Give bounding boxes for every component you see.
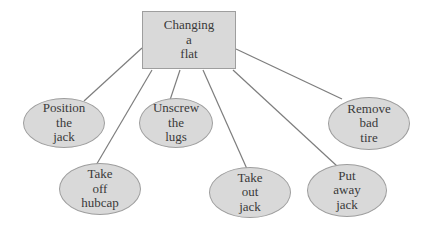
edge-unscrew-the-lugs xyxy=(170,70,180,100)
edge-remove-bad-tire xyxy=(236,49,342,99)
node-put-away-jack: Put away jack xyxy=(307,164,387,217)
node-position-the-jack: Position the jack xyxy=(23,98,105,148)
edge-put-away-jack xyxy=(233,70,337,166)
node-take-off-hubcap: Take off hubcap xyxy=(59,163,141,215)
node-remove-bad-tire: Remove bad tire xyxy=(328,97,410,150)
node-unscrew-the-lugs: Unscrew the lugs xyxy=(139,98,213,148)
edge-position-the-jack xyxy=(84,48,142,101)
node-take-out-jack: Take out jack xyxy=(209,167,291,218)
root-node-changing-a-flat: Changing a flat xyxy=(142,11,236,69)
flat-tire-cluster-diagram: Changing a flat Position the jack Take o… xyxy=(0,0,426,237)
